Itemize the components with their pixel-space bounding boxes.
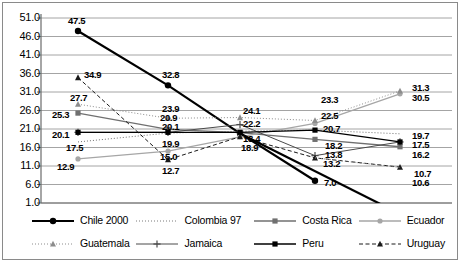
- data-point-marker: [75, 156, 80, 161]
- legend-label: Uruguay: [403, 238, 445, 249]
- series-ecuador: [75, 91, 402, 161]
- data-point-marker: [75, 28, 81, 34]
- data-point-marker: [397, 139, 402, 144]
- chart-legend: Chile 2000Colombia 97Costa RicaEcuadorGu…: [30, 209, 454, 257]
- data-point-marker: [165, 82, 171, 88]
- data-value-label: 18.9: [241, 143, 258, 153]
- legend-label: Ecuador: [403, 215, 445, 226]
- data-point-marker: [312, 178, 318, 184]
- y-axis-tick-label: 41.0: [0, 49, 40, 60]
- legend-label: Peru: [298, 238, 323, 249]
- data-point-marker: [75, 130, 80, 135]
- series-line: [78, 94, 400, 159]
- legend-item-chile-2000[interactable]: Chile 2000: [30, 215, 134, 227]
- legend-key-swatch: [252, 238, 298, 250]
- data-value-label: 12.7: [162, 166, 179, 176]
- legend-item-uruguay[interactable]: Uruguay: [357, 238, 454, 250]
- data-point-marker: [50, 217, 56, 223]
- data-point-marker: [75, 74, 81, 80]
- data-value-label: 7.0: [324, 178, 336, 188]
- legend-label: Chile 2000: [76, 215, 128, 226]
- data-value-label: 12.9: [57, 162, 74, 172]
- legend-key-swatch: [134, 215, 180, 227]
- data-value-label: 13.2: [323, 159, 340, 169]
- data-value-label: 20.1: [52, 130, 69, 140]
- legend-label: Guatemala: [76, 238, 130, 249]
- legend-key-swatch: [30, 215, 76, 227]
- data-value-label: 25.3: [52, 110, 69, 120]
- data-value-label: 20.1: [162, 122, 179, 132]
- data-value-label: 32.8: [162, 70, 179, 80]
- data-point-marker: [312, 128, 317, 133]
- data-point-marker: [273, 241, 278, 246]
- legend-label: Colombia 97: [180, 215, 241, 226]
- data-value-label: 22.5: [321, 111, 338, 121]
- legend-key-swatch: [252, 215, 298, 227]
- data-value-label: 23.3: [321, 95, 338, 105]
- legend-key-swatch: [30, 238, 76, 250]
- y-axis-tick-label: 1.0: [0, 197, 40, 208]
- series-guatemala: [75, 88, 403, 123]
- legend-key-swatch: [357, 215, 403, 227]
- data-value-label: 22.2: [243, 119, 260, 129]
- legend-key-swatch: [134, 238, 180, 250]
- data-point-marker: [154, 240, 161, 247]
- data-value-label: 24.1: [243, 106, 260, 116]
- series-jamaica: [74, 121, 403, 159]
- y-axis-tick-label: 26.0: [0, 105, 40, 116]
- y-axis-tick-label: 21.0: [0, 123, 40, 134]
- y-axis-tick-label: 51.0: [0, 12, 40, 23]
- y-axis-tick-label: 16.0: [0, 142, 40, 153]
- data-value-label: 47.5: [68, 16, 85, 26]
- data-value-label: 15.0: [160, 152, 177, 162]
- series-line: [78, 31, 315, 181]
- data-value-label: 17.5: [66, 143, 83, 153]
- data-point-marker: [273, 218, 278, 223]
- y-axis-tick-label: 6.0: [0, 179, 40, 190]
- data-value-label: 30.5: [412, 93, 429, 103]
- legend-label: Costa Rica: [298, 215, 351, 226]
- data-value-label: 20.7: [323, 124, 340, 134]
- legend-label: Jamaica: [180, 238, 222, 249]
- data-point-marker: [377, 218, 382, 223]
- data-value-label: 10.6: [412, 178, 429, 188]
- legend-item-colombia-97[interactable]: Colombia 97: [134, 215, 252, 227]
- legend-item-ecuador[interactable]: Ecuador: [357, 215, 454, 227]
- series-line: [78, 91, 400, 121]
- legend-item-costa-rica[interactable]: Costa Rica: [252, 215, 356, 227]
- data-value-label: 19.9: [162, 139, 179, 149]
- data-point-marker: [75, 110, 80, 115]
- y-axis-tick-label: 46.0: [0, 31, 40, 42]
- chart-container: 51.046.041.036.031.026.021.016.011.06.01…: [0, 0, 460, 262]
- series-chile-2000: [75, 28, 318, 184]
- y-axis-tick-label: 11.0: [0, 160, 40, 171]
- y-axis-tick-label: 31.0: [0, 86, 40, 97]
- legend-row: GuatemalaJamaicaPeruUruguay: [30, 232, 454, 255]
- data-value-label: 34.9: [84, 70, 101, 80]
- data-value-label: 16.2: [412, 150, 429, 160]
- legend-key-swatch: [357, 238, 403, 250]
- y-axis-tick-label: 36.0: [0, 68, 40, 79]
- legend-item-peru[interactable]: Peru: [252, 238, 356, 250]
- data-point-marker: [397, 88, 403, 94]
- legend-item-guatemala[interactable]: Guatemala: [30, 238, 134, 250]
- data-value-label: 27.7: [70, 93, 87, 103]
- data-point-marker: [312, 137, 317, 142]
- legend-row: Chile 2000Colombia 97Costa RicaEcuador: [30, 209, 454, 232]
- legend-item-jamaica[interactable]: Jamaica: [134, 238, 252, 250]
